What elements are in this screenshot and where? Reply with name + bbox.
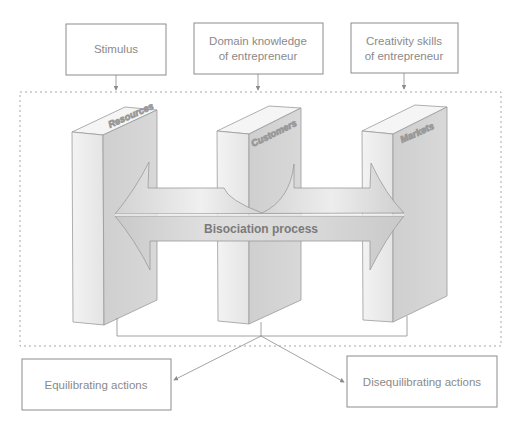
arrow-icon — [261, 336, 344, 382]
input-box-stimulus: Stimulus — [66, 24, 166, 75]
output-box-disequilibrating: Disequilibrating actions — [347, 356, 497, 407]
input-label-line2: of entrepreneur — [365, 50, 444, 62]
output-label: Disequilibrating actions — [363, 376, 482, 388]
input-label-line1: Creativity skills — [366, 35, 442, 47]
input-box-creativity-skills: Creativity skills of entrepreneur — [351, 23, 458, 73]
input-arrows — [116, 73, 404, 90]
bisociation-diagram: Stimulus Domain knowledge of entrepreneu… — [0, 0, 517, 425]
bisociation-label: Bisociation process — [204, 222, 318, 236]
input-label: Stimulus — [94, 43, 138, 55]
arrow-icon — [174, 336, 261, 380]
output-label: Equilibrating actions — [45, 379, 148, 391]
input-label-line2: of entrepreneur — [219, 50, 298, 62]
output-arrows — [174, 336, 344, 382]
input-box-domain-knowledge: Domain knowledge of entrepreneur — [194, 23, 323, 74]
output-box-equilibrating: Equilibrating actions — [22, 359, 171, 410]
input-label-line1: Domain knowledge — [209, 35, 307, 47]
